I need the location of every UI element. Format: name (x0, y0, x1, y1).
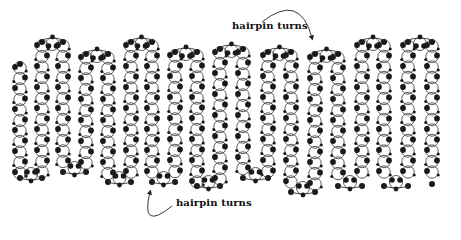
strand (400, 39, 416, 189)
bottom-hairpin-turn (384, 176, 408, 192)
strands-group (12, 39, 440, 195)
strand (78, 51, 94, 175)
bottom-hairpin-turn (338, 176, 362, 192)
top-hairpin-turn (362, 35, 384, 51)
curved-arrow-icon-bottom (148, 192, 172, 216)
top-hairpin-turn (131, 35, 152, 51)
strand (307, 51, 323, 195)
top-hairpin-turn (86, 47, 108, 63)
strand (144, 39, 160, 185)
bottom-hairpin-turn (152, 172, 175, 188)
strand (354, 39, 370, 189)
strand (12, 61, 28, 181)
strand (167, 49, 183, 185)
strand (330, 51, 346, 189)
strand (212, 46, 228, 189)
strand (235, 46, 251, 181)
top-hairpin-turn (175, 45, 197, 61)
strand (55, 39, 71, 175)
strand (260, 49, 276, 181)
strand (283, 49, 299, 195)
strand (376, 39, 392, 189)
strand (100, 51, 116, 185)
strand (424, 39, 440, 187)
strand (34, 39, 50, 181)
top-hairpin-turn (42, 35, 63, 51)
strand (123, 39, 139, 185)
strand (189, 49, 205, 189)
hairpin-turns-label-bottom: hairpin turns (176, 197, 252, 208)
hairpin-turns-label-top: hairpin turns (232, 20, 308, 31)
